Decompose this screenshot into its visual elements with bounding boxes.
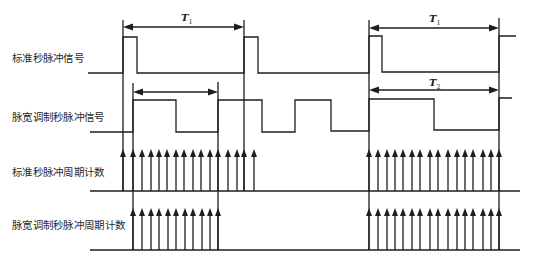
arrowhead-up-icon (165, 208, 171, 216)
count-pulse-arrow (427, 208, 433, 250)
arrowhead-up-icon (366, 208, 372, 216)
count-pulse-arrow (445, 149, 451, 191)
count-pulse-arrow (427, 149, 433, 191)
arrowhead-up-icon (435, 208, 441, 216)
arrowhead-up-icon (470, 208, 476, 216)
count-pulse-arrow (366, 149, 372, 191)
arrowhead-up-icon (400, 149, 406, 157)
count-pulse-arrow (173, 208, 179, 250)
period-label: T2 (429, 77, 441, 91)
count-pulse-arrow (164, 149, 170, 191)
arrowhead-left-icon (123, 24, 133, 31)
arrowhead-up-icon (375, 149, 381, 157)
count-pulse-arrow (156, 149, 162, 191)
standard-pps-count-row (90, 149, 520, 191)
count-pulse-arrow (207, 149, 213, 191)
count-pulse-arrow (400, 208, 406, 250)
label-pwm-pps-signal: 脉宽调制秒脉冲信号 (12, 111, 105, 123)
arrowhead-up-icon (173, 149, 179, 157)
arrowhead-up-icon (427, 149, 433, 157)
arrowhead-up-icon (417, 149, 423, 157)
arrowhead-up-icon (454, 208, 460, 216)
arrowhead-up-icon (392, 208, 398, 216)
arrowhead-up-icon (470, 149, 476, 157)
waveforms (88, 36, 516, 132)
arrowhead-up-icon (120, 149, 126, 157)
period-label: T1 (181, 12, 193, 26)
count-pulse-arrow (165, 208, 171, 250)
label-standard-pps-signal: 标准秒脉冲信号 (12, 52, 84, 64)
count-pulse-arrow (392, 208, 398, 250)
pwm-pps-count-row (90, 208, 520, 250)
arrowhead-up-icon (488, 149, 494, 157)
count-pulse-arrow (181, 149, 187, 191)
period-t1-right: T1 (369, 13, 499, 32)
pwm-pps-waveform (90, 98, 512, 132)
arrowhead-left-icon (133, 89, 143, 96)
count-pulse-arrow (462, 208, 468, 250)
count-pulse-arrow (120, 149, 126, 191)
timing-diagram: T1T1T2 标准秒脉冲信号 脉宽调制秒脉冲信号 标准秒脉冲周期计数 脉宽调制秒… (0, 0, 534, 263)
count-pulse-arrow (190, 208, 196, 250)
arrowhead-up-icon (130, 208, 136, 216)
arrowhead-up-icon (375, 208, 381, 216)
count-pulse-arrow (435, 149, 441, 191)
count-pulse-arrow (454, 208, 460, 250)
count-pulse-arrow (182, 208, 188, 250)
count-pulse-arrow (488, 149, 494, 191)
arrowhead-up-icon (480, 149, 486, 157)
count-pulse-arrow (207, 208, 213, 250)
arrowhead-up-icon (496, 208, 502, 216)
arrowhead-up-icon (488, 208, 494, 216)
arrowhead-up-icon (480, 208, 486, 216)
count-pulse-arrow (488, 208, 494, 250)
arrowhead-up-icon (164, 149, 170, 157)
arrowhead-up-icon (156, 208, 162, 216)
arrowhead-up-icon (225, 149, 231, 157)
arrowhead-up-icon (427, 208, 433, 216)
arrowhead-up-icon (190, 149, 196, 157)
arrowhead-up-icon (241, 149, 247, 157)
standard-pps-waveform (88, 36, 516, 73)
arrowhead-up-icon (215, 208, 221, 216)
arrowhead-up-icon (435, 149, 441, 157)
count-pulse-arrow (251, 149, 257, 191)
count-pulse-arrow (496, 149, 502, 191)
arrowhead-up-icon (199, 208, 205, 216)
count-pulse-arrow (409, 208, 415, 250)
arrowhead-up-icon (496, 149, 502, 157)
arrowhead-up-icon (409, 149, 415, 157)
arrowhead-right-icon (489, 25, 499, 32)
count-pulse-arrow (400, 149, 406, 191)
arrowhead-up-icon (445, 208, 451, 216)
arrowhead-up-icon (417, 208, 423, 216)
count-pulse-arrow (148, 149, 154, 191)
arrowhead-up-icon (148, 208, 154, 216)
count-pulse-arrow (366, 208, 372, 250)
arrowhead-up-icon (234, 149, 240, 157)
arrowhead-up-icon (462, 149, 468, 157)
count-pulse-arrow (190, 149, 196, 191)
arrowhead-up-icon (392, 149, 398, 157)
period-t2-right: T2 (369, 77, 499, 94)
period-t1-left: T1 (123, 12, 244, 31)
arrowhead-up-icon (462, 208, 468, 216)
arrowhead-up-icon (384, 149, 390, 157)
count-pulse-arrow (384, 208, 390, 250)
arrowhead-up-icon (182, 208, 188, 216)
count-pulse-arrow (392, 149, 398, 191)
arrowhead-left-icon (369, 87, 379, 94)
arrowhead-up-icon (445, 149, 451, 157)
arrowhead-up-icon (190, 208, 196, 216)
arrowhead-up-icon (215, 149, 221, 157)
label-standard-pps-period-count: 标准秒脉冲周期计数 (12, 166, 105, 178)
count-pulse-arrow (480, 208, 486, 250)
period-label: T1 (429, 13, 441, 27)
arrowhead-up-icon (384, 208, 390, 216)
arrowhead-up-icon (148, 149, 154, 157)
arrowhead-up-icon (139, 149, 145, 157)
arrowhead-up-icon (409, 208, 415, 216)
count-pulse-arrow (156, 208, 162, 250)
count-pulse-arrow (130, 149, 136, 191)
count-pulse-arrow (445, 208, 451, 250)
